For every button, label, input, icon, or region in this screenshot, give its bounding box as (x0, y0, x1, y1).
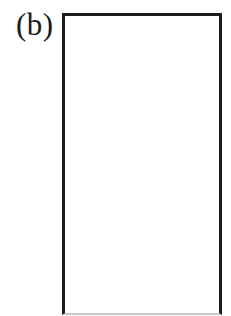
figure-panel: (b) (0, 0, 231, 316)
empty-panel-box (62, 13, 222, 315)
panel-label: (b) (16, 9, 54, 42)
